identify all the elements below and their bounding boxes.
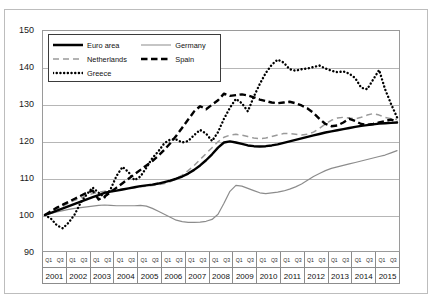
- x-axis-quarter-cell-2007: Q1Q3: [185, 252, 209, 267]
- x-axis-year-2013: 2013: [328, 267, 352, 284]
- chart-legend: Euro area Germany Netherlands Spain Gree…: [48, 34, 221, 82]
- x-tick-2005-Q1: Q1: [138, 257, 149, 263]
- y-tick-label-140: 140: [4, 63, 34, 72]
- x-tick-2007-Q1: Q1: [186, 257, 197, 263]
- legend-label-germany: Germany: [175, 41, 205, 50]
- x-tick-2004-Q1: Q1: [114, 257, 125, 263]
- y-tick-label-90: 90: [4, 248, 34, 257]
- legend-label-spain: Spain: [175, 55, 194, 64]
- x-axis-year-2002: 2002: [66, 267, 90, 284]
- x-tick-2004-Q3: Q3: [126, 257, 137, 263]
- legend-entry-spain[interactable]: Spain: [141, 52, 216, 66]
- x-axis-year-2003: 2003: [90, 267, 114, 284]
- x-axis-year-2014: 2014: [351, 267, 375, 284]
- x-tick-2001-Q1: Q1: [43, 257, 54, 263]
- legend-key-euro-area-icon: [53, 40, 83, 50]
- x-tick-2014-Q3: Q3: [364, 257, 375, 263]
- x-tick-2008-Q3: Q3: [221, 257, 232, 263]
- legend-row-1: Euro area Germany: [53, 38, 216, 52]
- x-axis-quarter-cell-2004: Q1Q3: [113, 252, 137, 267]
- legend-entry-euro-area[interactable]: Euro area: [53, 38, 141, 52]
- legend-key-spain-icon: [141, 54, 171, 64]
- x-axis-year-2006: 2006: [161, 267, 185, 284]
- x-tick-2003-Q1: Q1: [91, 257, 102, 263]
- y-tick-label-110: 110: [4, 174, 34, 183]
- x-tick-2009-Q3: Q3: [245, 257, 256, 263]
- x-axis-quarter-cell-2010: Q1Q3: [256, 252, 280, 267]
- x-tick-2015-Q3: Q3: [388, 257, 399, 263]
- legend-row-3: Greece: [53, 66, 216, 80]
- x-tick-2011-Q3: Q3: [292, 257, 303, 263]
- x-axis-year-2010: 2010: [256, 267, 280, 284]
- legend-entry-netherlands[interactable]: Netherlands: [53, 52, 141, 66]
- x-tick-2002-Q3: Q3: [78, 257, 89, 263]
- x-tick-2007-Q3: Q3: [197, 257, 208, 263]
- legend-key-germany-icon: [141, 40, 171, 50]
- y-tick-label-130: 130: [4, 100, 34, 109]
- x-tick-2009-Q1: Q1: [233, 257, 244, 263]
- x-axis-quarter-cell-2006: Q1Q3: [161, 252, 185, 267]
- chart-figure: 15014013012011010090 Q1Q3Q1Q3Q1Q3Q1Q3Q1Q…: [0, 0, 432, 298]
- legend-label-netherlands: Netherlands: [87, 55, 127, 64]
- x-axis-quarter-cell-2015: Q1Q3: [375, 252, 400, 267]
- x-tick-2012-Q1: Q1: [305, 257, 316, 263]
- x-axis-year-2008: 2008: [209, 267, 233, 284]
- x-axis-quarter-cell-2009: Q1Q3: [232, 252, 256, 267]
- x-tick-2002-Q1: Q1: [67, 257, 78, 263]
- x-axis-quarter-cell-2012: Q1Q3: [304, 252, 328, 267]
- x-axis-year-2012: 2012: [304, 267, 328, 284]
- x-axis-year-2001: 2001: [42, 267, 66, 284]
- x-tick-2005-Q3: Q3: [150, 257, 161, 263]
- x-axis-year-row: 2001200220032004200520062007200820092010…: [42, 267, 400, 284]
- x-axis-year-2007: 2007: [185, 267, 209, 284]
- x-tick-2008-Q1: Q1: [210, 257, 221, 263]
- series-line-spain: [45, 94, 397, 215]
- x-tick-2014-Q1: Q1: [352, 257, 363, 263]
- legend-label-euro-area: Euro area: [87, 41, 119, 50]
- x-tick-2001-Q3: Q3: [54, 257, 65, 263]
- x-tick-2012-Q3: Q3: [316, 257, 327, 263]
- x-axis-quarter-cell-2001: Q1Q3: [42, 252, 66, 267]
- legend-key-greece-icon: [53, 68, 83, 78]
- x-tick-2006-Q1: Q1: [162, 257, 173, 263]
- x-axis-year-2004: 2004: [113, 267, 137, 284]
- legend-row-2: Netherlands Spain: [53, 52, 216, 66]
- legend-label-greece: Greece: [87, 69, 111, 78]
- x-axis-year-2009: 2009: [232, 267, 256, 284]
- y-tick-label-150: 150: [4, 26, 34, 35]
- x-tick-2013-Q3: Q3: [340, 257, 351, 263]
- x-axis-quarter-row: Q1Q3Q1Q3Q1Q3Q1Q3Q1Q3Q1Q3Q1Q3Q1Q3Q1Q3Q1Q3…: [42, 252, 400, 267]
- legend-entry-greece[interactable]: Greece: [53, 66, 145, 80]
- legend-key-netherlands-icon: [53, 54, 83, 64]
- x-axis-quarter-cell-2011: Q1Q3: [280, 252, 304, 267]
- x-axis-quarter-cell-2003: Q1Q3: [90, 252, 114, 267]
- y-tick-label-120: 120: [4, 137, 34, 146]
- series-line-germany: [45, 151, 397, 223]
- x-axis-year-2005: 2005: [137, 267, 161, 284]
- x-tick-2010-Q3: Q3: [269, 257, 280, 263]
- x-axis-year-2011: 2011: [280, 267, 304, 284]
- x-tick-2015-Q1: Q1: [376, 257, 387, 263]
- x-axis-year-2015: 2015: [375, 267, 400, 284]
- x-axis-quarter-cell-2014: Q1Q3: [351, 252, 375, 267]
- x-axis-quarter-cell-2005: Q1Q3: [137, 252, 161, 267]
- series-line-euro-area: [45, 123, 397, 216]
- x-axis-quarter-cell-2013: Q1Q3: [328, 252, 352, 267]
- x-axis: Q1Q3Q1Q3Q1Q3Q1Q3Q1Q3Q1Q3Q1Q3Q1Q3Q1Q3Q1Q3…: [42, 252, 400, 286]
- x-tick-2006-Q3: Q3: [173, 257, 184, 263]
- x-tick-2010-Q1: Q1: [257, 257, 268, 263]
- x-tick-2013-Q1: Q1: [329, 257, 340, 263]
- legend-entry-germany[interactable]: Germany: [141, 38, 216, 52]
- x-axis-quarter-cell-2002: Q1Q3: [66, 252, 90, 267]
- y-tick-label-100: 100: [4, 211, 34, 220]
- x-axis-quarter-cell-2008: Q1Q3: [209, 252, 233, 267]
- x-tick-2003-Q3: Q3: [102, 257, 113, 263]
- x-tick-2011-Q1: Q1: [281, 257, 292, 263]
